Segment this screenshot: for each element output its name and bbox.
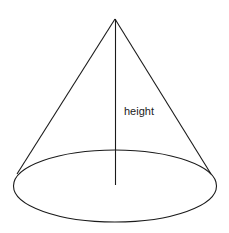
cone-drawing [0, 0, 229, 233]
cone-diagram: height [0, 0, 229, 233]
height-label: height [124, 106, 154, 117]
